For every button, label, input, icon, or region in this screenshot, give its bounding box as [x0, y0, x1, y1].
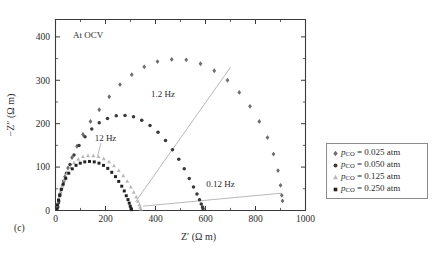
circle-marker-icon	[331, 161, 340, 170]
data-point	[127, 198, 130, 201]
x-axis-title: Z′ (Ω m)	[181, 231, 216, 243]
data-point	[107, 94, 111, 99]
data-point	[183, 167, 187, 171]
data-point	[195, 192, 199, 196]
data-point	[114, 175, 117, 178]
data-point	[125, 194, 128, 197]
legend-marker	[330, 173, 341, 182]
y-tick-label: 100	[36, 162, 51, 172]
data-point	[71, 167, 74, 170]
frequency-label: 0.12 Hz	[206, 179, 235, 189]
figure-panel-c: 020040060080010000100200300400 12 Hz1.2 …	[0, 0, 432, 254]
data-point	[188, 177, 192, 181]
data-point	[142, 64, 146, 69]
data-point	[81, 154, 85, 158]
data-point	[279, 183, 283, 188]
annotation-leader-lines	[98, 67, 282, 206]
data-point	[62, 183, 65, 186]
x-tick-label: 1000	[296, 214, 315, 224]
legend-item: pCO = 0.050 atm	[330, 159, 423, 171]
data-point	[117, 168, 121, 172]
x-tick-label: 800	[248, 214, 263, 224]
y-tick-label: 200	[36, 119, 51, 129]
data-point	[120, 185, 123, 188]
axis-ticks	[56, 20, 306, 211]
data-point	[98, 162, 101, 165]
data-point	[89, 119, 93, 124]
data-point	[90, 127, 94, 131]
plot-frame	[56, 20, 306, 211]
y-tick-label: 0	[45, 206, 50, 216]
legend-label: pCO = 0.125 atm	[341, 171, 400, 183]
data-point	[67, 172, 70, 175]
data-point	[226, 78, 230, 83]
legend-label: pCO = 0.050 atm	[341, 159, 400, 171]
legend-item: pCO = 0.250 atm	[330, 183, 423, 195]
data-point	[199, 61, 203, 66]
legend-label: pCO = 0.250 atm	[341, 183, 400, 195]
x-tick-label: 400	[148, 214, 163, 224]
data-point	[102, 157, 106, 161]
data-point	[171, 148, 175, 152]
data-point	[148, 124, 152, 128]
data-point	[79, 162, 82, 165]
data-point	[83, 160, 86, 163]
diamond-marker-icon	[331, 149, 340, 158]
data-point	[102, 164, 105, 167]
data-point	[68, 163, 72, 167]
data-point	[123, 114, 127, 118]
data-point	[140, 118, 144, 122]
square-marker-icon	[331, 185, 340, 194]
data-point	[129, 185, 133, 189]
data-point	[164, 139, 168, 143]
data-point	[170, 57, 174, 62]
data-point	[130, 208, 133, 211]
data-point	[118, 82, 122, 87]
data-point	[117, 180, 120, 183]
x-tick-label: 600	[198, 214, 213, 224]
data-point	[64, 177, 67, 180]
legend-marker	[330, 161, 341, 170]
data-point	[237, 90, 241, 95]
data-point	[281, 199, 285, 204]
data-point	[91, 154, 95, 158]
data-point	[93, 160, 96, 163]
data-point	[134, 195, 138, 199]
data-point	[112, 164, 116, 168]
data-point	[128, 202, 131, 205]
x-tick-label: 200	[98, 214, 113, 224]
legend-item: pCO = 0.125 atm	[330, 171, 423, 183]
data-point	[76, 157, 80, 161]
legend-item: pCO = 0.025 atm	[330, 147, 423, 159]
data-point	[72, 153, 76, 157]
data-point	[106, 117, 110, 121]
legend-marker	[330, 149, 341, 158]
data-point	[138, 203, 142, 207]
data-point	[115, 114, 119, 118]
data-point	[248, 104, 252, 109]
data-point	[130, 72, 134, 77]
data-point	[276, 168, 280, 173]
frequency-label: 12 Hz	[95, 133, 117, 143]
y-tick-label: 400	[36, 32, 51, 42]
data-point	[132, 190, 136, 194]
data-point	[192, 185, 196, 189]
data-point	[75, 164, 78, 167]
data-point	[55, 207, 58, 210]
data-point	[106, 167, 109, 170]
x-tick-label: 0	[53, 214, 58, 224]
frequency-label: 1.2 Hz	[151, 89, 175, 99]
data-point	[156, 59, 160, 64]
data-point	[77, 144, 81, 148]
panel-label: (c)	[14, 223, 25, 234]
data-point	[56, 203, 59, 206]
data-point	[98, 121, 102, 125]
data-point	[212, 68, 216, 73]
data-point	[97, 154, 101, 158]
data-point	[123, 189, 126, 192]
data-point	[266, 135, 270, 140]
data-point	[272, 152, 276, 157]
data-point	[83, 135, 87, 139]
legend-marker	[330, 185, 341, 194]
data-point	[257, 119, 261, 124]
